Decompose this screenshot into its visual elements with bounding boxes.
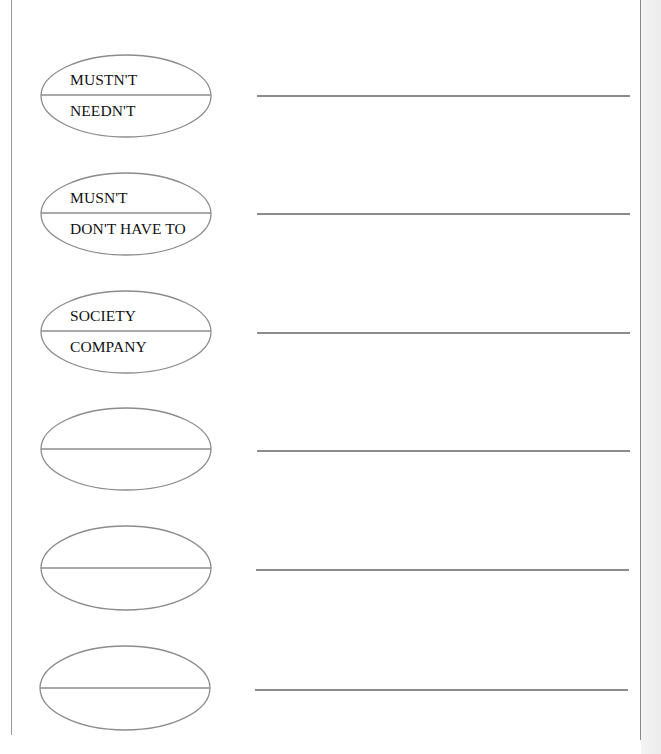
word-ellipse	[39, 645, 211, 729]
ellipse-shape	[40, 407, 212, 491]
ellipse-shape	[40, 172, 212, 256]
word-ellipse	[40, 525, 212, 609]
ellipse-top-word: SOCIETY	[70, 307, 136, 325]
word-ellipse: SOCIETY COMPANY	[40, 290, 212, 374]
worksheet-item-1: MUSTN'T NEEDN'T	[0, 54, 641, 144]
answer-line[interactable]	[255, 689, 628, 691]
answer-line[interactable]	[257, 332, 630, 334]
ellipse-shape	[40, 525, 212, 611]
answer-line[interactable]	[257, 95, 630, 97]
worksheet-item-3: SOCIETY COMPANY	[0, 290, 641, 380]
page-edge-shadow	[641, 0, 661, 754]
ellipse-shape	[40, 290, 212, 374]
worksheet-item-2: MUSN'T DON'T HAVE TO	[0, 172, 641, 262]
word-ellipse: MUSTN'T NEEDN'T	[40, 54, 212, 138]
ellipse-bottom-word: NEEDN'T	[70, 102, 135, 120]
word-ellipse	[40, 407, 212, 491]
ellipse-bottom-word: DON'T HAVE TO	[70, 220, 186, 238]
word-ellipse: MUSN'T DON'T HAVE TO	[40, 172, 212, 256]
answer-line[interactable]	[257, 450, 630, 452]
ellipse-top-word: MUSTN'T	[70, 71, 137, 89]
worksheet-item-5	[0, 525, 641, 615]
ellipse-shape	[39, 645, 211, 731]
ellipse-shape	[40, 54, 212, 138]
answer-line[interactable]	[257, 213, 630, 215]
worksheet-item-4	[0, 407, 641, 497]
ellipse-top-word: MUSN'T	[70, 189, 128, 207]
ellipse-bottom-word: COMPANY	[70, 338, 147, 356]
answer-line[interactable]	[256, 569, 629, 571]
worksheet-item-6	[0, 645, 641, 735]
